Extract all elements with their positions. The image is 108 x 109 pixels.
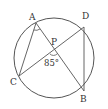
circle-angle-diagram: A D C B P 85° [0,0,108,109]
chord-ac [19,23,36,76]
point-label-d: D [82,11,89,21]
chord-ab [36,23,84,91]
point-label-c: C [10,77,17,87]
angle-arc-p [50,54,57,55]
point-label-a: A [28,12,36,22]
chord-cd [19,27,84,76]
angle-value-label: 85° [44,58,59,68]
point-label-p: P [51,37,57,47]
angle-arc-a [34,29,40,30]
diagram-canvas: A D C B P 85° [0,0,108,109]
point-label-b: B [80,94,87,104]
